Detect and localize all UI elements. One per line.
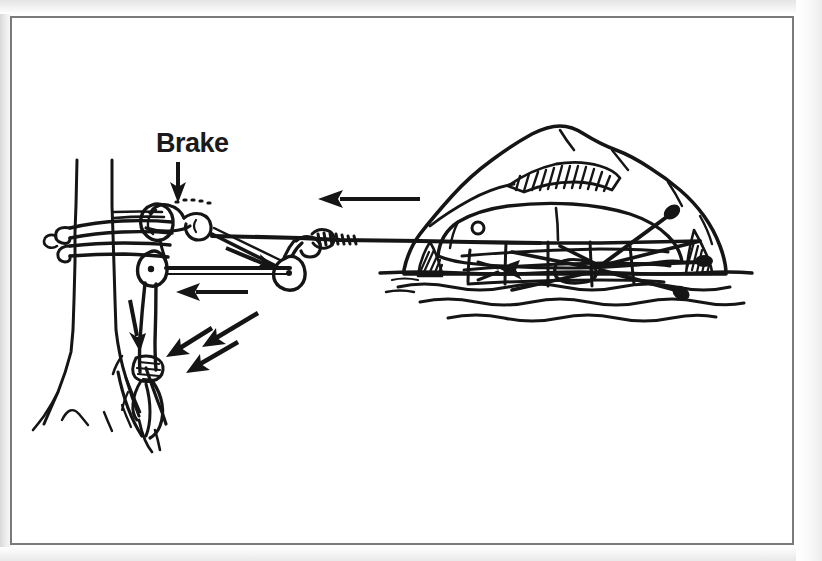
brake-carabiner (141, 200, 212, 258)
anchor-rope-wrap (44, 212, 172, 263)
raft-shading-top (508, 162, 620, 192)
figure-root: Brake (0, 0, 822, 561)
inflatable-raft (404, 126, 726, 303)
haul-direction-arrow-upper-icon (318, 190, 420, 208)
force-arrow-2-icon (186, 342, 238, 373)
haul-direction-arrow-lower-icon (176, 283, 248, 301)
diagram-illustration (0, 0, 822, 561)
brake-pointer-arrow-icon (170, 162, 186, 203)
force-arrow-3-icon (166, 328, 212, 357)
raft-shading-right (686, 230, 712, 274)
brake-label: Brake (156, 128, 229, 159)
